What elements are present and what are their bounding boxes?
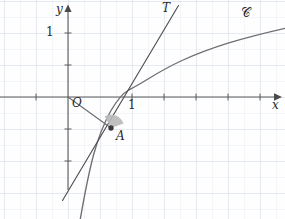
plot-canvas [0, 0, 285, 219]
x-tick-label-1: 1 [128, 99, 136, 111]
point-A-label: A [116, 130, 125, 142]
y-axis-label: y [56, 3, 63, 15]
grid-layer [0, 0, 285, 219]
curve-label: 𝒞 [241, 6, 250, 19]
y-tick-label-1: 1 [46, 26, 54, 38]
grid-major [0, 0, 285, 219]
x-axis-label: x [272, 99, 279, 111]
tangent-label: T [162, 2, 170, 14]
math-figure: y x O 1 1 A T 𝒞 [0, 0, 285, 219]
point-A-marker [108, 125, 113, 130]
origin-label: O [72, 97, 82, 109]
